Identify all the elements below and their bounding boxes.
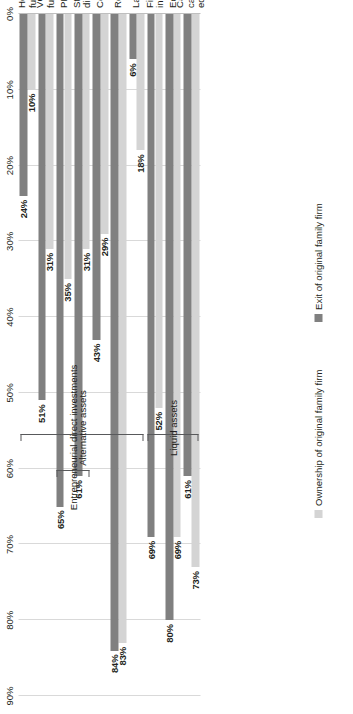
- group-bracket-label: Liquid assets: [167, 373, 178, 484]
- value-tick-label: 60%: [3, 459, 14, 478]
- category-label: Start-up direct: [71, 0, 92, 8]
- value-tick-label: 30%: [3, 232, 14, 251]
- value-tick-label: 10%: [3, 80, 14, 99]
- legend-item[interactable]: Exit of original family firm: [312, 203, 323, 322]
- category-label: Commodities: [95, 0, 106, 8]
- legend-label: Ownership of original family firm: [312, 370, 323, 507]
- category-label: Fixed income: [144, 0, 165, 8]
- category-label: Equities: [167, 0, 178, 8]
- bracket-tip: [20, 434, 21, 441]
- category-label: PE direct: [58, 0, 69, 8]
- category-label: Land: [131, 0, 142, 8]
- legend-swatch: [314, 314, 322, 322]
- category-label: Hedge funds: [16, 0, 37, 8]
- chart-screenshot: 0%10%20%30%40%50%60%70%80%90% 73%61%69%8…: [0, 0, 353, 714]
- value-tick-label: 70%: [3, 535, 14, 554]
- bracket-tip: [147, 434, 148, 441]
- value-tick-label: 40%: [3, 308, 14, 327]
- value-tick-label: 90%: [3, 686, 14, 705]
- category-label: Real estate: [113, 0, 124, 8]
- value-tick-label: 20%: [3, 156, 14, 175]
- bracket-tip: [142, 434, 143, 441]
- value-tick-label: 0%: [3, 7, 14, 21]
- bracket-tip: [197, 434, 198, 441]
- value-tick-label: 50%: [3, 383, 14, 402]
- group-bracket-label: Entrepreneurial direct investments: [67, 418, 78, 510]
- bracket-tip: [88, 470, 89, 477]
- bracket-tip: [56, 470, 57, 477]
- legend-item[interactable]: Ownership of original family firm: [312, 370, 323, 519]
- rotated-chart-canvas: 0%10%20%30%40%50%60%70%80%90% 73%61%69%8…: [0, 0, 353, 714]
- category-axis-labels: Cash and cash equivalentsEquitiesFixed i…: [18, 0, 200, 714]
- chart-legend: Ownership of original family firmExit of…: [312, 0, 328, 714]
- legend-swatch: [314, 510, 322, 518]
- legend-label: Exit of original family firm: [312, 203, 323, 310]
- value-tick-label: 80%: [3, 611, 14, 630]
- category-label: Cash and cash equivalents: [175, 0, 207, 8]
- value-axis-tick-labels: 0%10%20%30%40%50%60%70%80%90%: [0, 0, 18, 714]
